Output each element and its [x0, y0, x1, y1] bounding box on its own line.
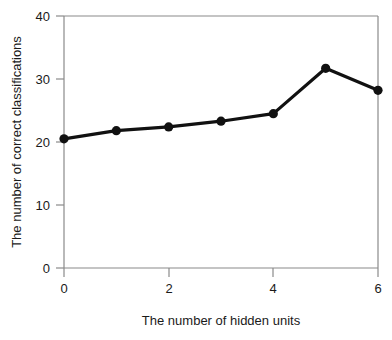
chart-page: 40 30 20 10 0 0 2 4 6 The number of hidd…: [0, 0, 392, 340]
x-tick-label-4: 4: [269, 281, 276, 296]
x-axis-title: The number of hidden units: [142, 313, 301, 328]
y-axis-title: The number of correct classifications: [9, 36, 24, 248]
y-tick-label-30: 30: [36, 72, 50, 87]
data-point: [216, 117, 225, 126]
data-point: [269, 109, 278, 118]
y-tick-label-10: 10: [36, 198, 50, 213]
data-point: [112, 126, 121, 135]
x-tick-label-0: 0: [60, 281, 67, 296]
x-axis-ticks: [64, 268, 378, 277]
y-tick-label-40: 40: [36, 9, 50, 24]
series-line: [64, 68, 378, 139]
data-point: [164, 122, 173, 131]
data-point: [321, 64, 330, 73]
line-chart: 40 30 20 10 0 0 2 4 6 The number of hidd…: [0, 0, 392, 340]
y-tick-label-20: 20: [36, 135, 50, 150]
data-point: [373, 86, 382, 95]
data-point: [59, 134, 68, 143]
plot-frame: [64, 16, 378, 268]
x-tick-label-6: 6: [374, 281, 381, 296]
y-tick-label-0: 0: [43, 261, 50, 276]
x-tick-label-2: 2: [165, 281, 172, 296]
